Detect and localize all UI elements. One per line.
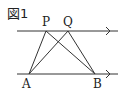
point-label-B: B xyxy=(93,77,102,91)
point-label-P: P xyxy=(42,15,50,29)
segment-BQ xyxy=(68,31,95,74)
segment-BP xyxy=(46,31,95,74)
segment-AQ xyxy=(29,31,68,74)
figure-title: 図1 xyxy=(7,6,28,21)
point-label-Q: Q xyxy=(63,15,73,29)
point-label-A: A xyxy=(21,77,31,91)
segment-AP xyxy=(29,31,46,74)
geometry-figure: 図1 P Q A B xyxy=(0,0,128,92)
